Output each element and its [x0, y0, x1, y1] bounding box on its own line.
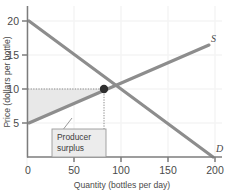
producer-surplus-callout-line1: Producer: [57, 132, 91, 142]
x-axis-title: Quantity (bottles per day): [74, 180, 171, 190]
x-tick-label-150: 150: [159, 164, 177, 176]
y-tick-label-20: 20: [7, 15, 19, 27]
x-tick-label-50: 50: [68, 164, 80, 176]
x-tick-label-200: 200: [206, 164, 224, 176]
y-axis-title: Price (dollars per bottle): [2, 36, 12, 127]
x-tick-label-0: 0: [25, 164, 31, 176]
x-tick-label-100: 100: [112, 164, 130, 176]
chart-svg: Producer surplus 20 15 10 5 0 50 100 150…: [0, 0, 229, 193]
demand-curve-label: D: [215, 143, 224, 154]
supply-demand-chart: Producer surplus 20 15 10 5 0 50 100 150…: [0, 0, 229, 193]
equilibrium-point-marker: [100, 85, 108, 93]
supply-curve-label: S: [211, 33, 216, 44]
y-tick-label-5: 5: [13, 117, 19, 129]
producer-surplus-callout-line2: surplus: [57, 143, 84, 153]
supply-curve: [29, 45, 209, 123]
